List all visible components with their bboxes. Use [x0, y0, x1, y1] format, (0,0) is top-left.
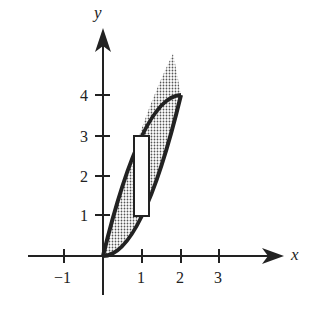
y-tick-label: 4	[80, 87, 88, 104]
representative-rectangle	[134, 136, 149, 216]
y-tick-label: 1	[80, 207, 88, 224]
x-tick-label: 1	[137, 269, 145, 286]
y-axis-label: y	[92, 3, 102, 22]
region-diagram: −1 1 2 3 1 2 3 4 x y	[0, 0, 312, 314]
x-axis-label: x	[290, 245, 299, 264]
x-tick-label: 2	[176, 269, 184, 286]
x-tick-label: 3	[214, 269, 222, 286]
y-tick-label: 2	[80, 168, 88, 185]
x-tick-label: −1	[54, 269, 71, 286]
y-tick-label: 3	[80, 128, 88, 145]
